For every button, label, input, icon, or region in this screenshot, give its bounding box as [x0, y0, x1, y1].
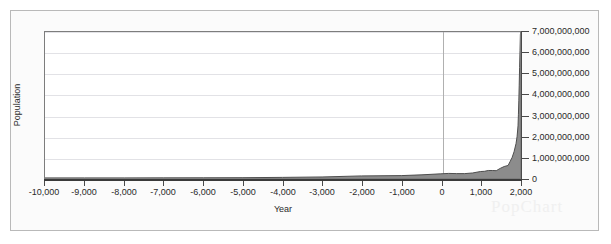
y-axis-tick-label: 1,000,000,000 [532, 154, 590, 163]
x-axis-tick [442, 181, 443, 186]
x-axis-tick-label: 1,000 [470, 188, 493, 197]
x-axis-tick-label: -9,000 [71, 188, 97, 197]
x-axis-tick-label: -3,000 [309, 188, 335, 197]
x-axis-tick [44, 181, 45, 186]
x-axis-tick [481, 181, 482, 186]
x-axis-title: Year [274, 204, 292, 214]
x-axis-tick [84, 181, 85, 186]
x-axis-tick-label: 0 [439, 188, 444, 197]
y-axis-tick [522, 94, 529, 95]
x-axis-tick-label: -4,000 [270, 188, 296, 197]
y-axis-tick-label: 3,000,000,000 [532, 112, 590, 121]
x-axis-tick [203, 181, 204, 186]
x-axis-tick [402, 181, 403, 186]
y-axis-tick-label: 5,000,000,000 [532, 69, 590, 78]
x-axis-tick [521, 181, 522, 186]
x-axis-tick-label: 2,000 [510, 188, 533, 197]
x-axis-tick [283, 181, 284, 186]
y-axis-tick-label: 0 [532, 175, 537, 184]
x-axis-tick-label: -8,000 [111, 188, 137, 197]
y-axis-tick [522, 158, 529, 159]
y-axis-tick-label: 6,000,000,000 [532, 48, 590, 57]
y-axis-tick [522, 116, 529, 117]
x-axis-tick [243, 181, 244, 186]
x-axis-tick-label: -6,000 [190, 188, 216, 197]
x-axis-tick-label: -10,000 [29, 188, 60, 197]
y-axis-tick [522, 137, 529, 138]
y-axis-title: Population [12, 84, 22, 127]
population-line-path [45, 34, 520, 178]
population-area-path [45, 34, 520, 178]
y-axis-tick [522, 73, 529, 74]
x-axis-tick [163, 181, 164, 186]
x-axis-tick [362, 181, 363, 186]
x-axis-tick-label: -1,000 [389, 188, 415, 197]
y-axis-tick [522, 31, 529, 32]
y-axis-tick [522, 52, 529, 53]
y-axis-tick-label: 2,000,000,000 [532, 133, 590, 142]
y-axis-tick-label: 7,000,000,000 [532, 27, 590, 36]
chart-figure: Population Year 01,000,000,0002,000,000,… [10, 10, 599, 231]
y-axis-tick [522, 179, 529, 180]
plot-area [44, 31, 521, 179]
x-axis-tick-label: -2,000 [349, 188, 375, 197]
population-area-series [45, 32, 520, 178]
x-axis-tick [124, 181, 125, 186]
x-axis-tick-label: -5,000 [230, 188, 256, 197]
y-axis-tick-label: 4,000,000,000 [532, 90, 590, 99]
x-axis-tick [322, 181, 323, 186]
watermark-text: PopChart [491, 197, 563, 217]
x-axis-tick-label: -7,000 [150, 188, 176, 197]
